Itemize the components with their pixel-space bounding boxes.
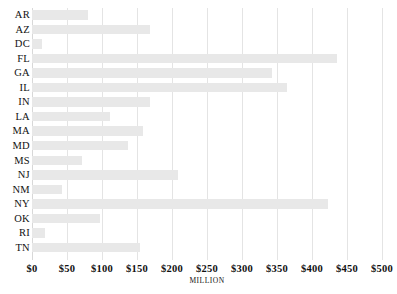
y-axis-label: MA	[0, 124, 30, 139]
bar	[32, 156, 82, 166]
x-axis-unit-label: MILLION	[167, 276, 247, 285]
y-axis-label: AZ	[0, 23, 30, 38]
bar	[32, 170, 178, 180]
y-axis-label: OK	[0, 212, 30, 227]
bar-row	[32, 37, 382, 52]
bar-row	[32, 95, 382, 110]
bar-row	[32, 241, 382, 256]
y-axis-label: FL	[0, 52, 30, 67]
gridline	[382, 8, 383, 260]
bar	[32, 228, 45, 238]
y-axis-label: MD	[0, 139, 30, 154]
x-axis-tick-labels: $0$50$100$150$200$250$300$350$400$450$50…	[0, 263, 379, 277]
bar-row	[32, 66, 382, 81]
y-axis-label: NJ	[0, 168, 30, 183]
x-axis-tick-label: $500	[352, 263, 397, 274]
bar-row	[32, 154, 382, 169]
bar	[32, 141, 128, 151]
bar	[32, 126, 143, 136]
bar-row	[32, 183, 382, 198]
bar	[32, 83, 287, 93]
bar-row	[32, 212, 382, 227]
bar	[32, 68, 272, 78]
bar-row	[32, 197, 382, 212]
bar	[32, 25, 150, 35]
bar	[32, 199, 328, 209]
bar-row	[32, 110, 382, 125]
bar-row	[32, 139, 382, 154]
y-axis-label: IN	[0, 95, 30, 110]
y-axis-label: NY	[0, 197, 30, 212]
plot-area	[32, 8, 382, 260]
y-axis-label: GA	[0, 66, 30, 81]
bar	[32, 97, 150, 107]
bar	[32, 243, 140, 253]
bar-row	[32, 81, 382, 96]
bar-row	[32, 124, 382, 139]
bar-rows	[32, 8, 382, 260]
y-axis-label: MS	[0, 154, 30, 169]
y-axis-category-labels: ARAZDCFLGAILINLAMAMDMSNJNMNYOKRITN	[0, 8, 30, 260]
bar	[32, 214, 100, 224]
bar	[32, 10, 88, 20]
bar	[32, 112, 110, 122]
bar-row	[32, 8, 382, 23]
bar	[32, 39, 42, 49]
bar-row	[32, 52, 382, 67]
y-axis-label: LA	[0, 110, 30, 125]
y-axis-label: IL	[0, 81, 30, 96]
bar-row	[32, 226, 382, 241]
chart-title-clipped	[0, 0, 379, 3]
bar-row	[32, 168, 382, 183]
y-axis-label: NM	[0, 183, 30, 198]
y-axis-label: DC	[0, 37, 30, 52]
y-axis-label: RI	[0, 226, 30, 241]
bar	[32, 185, 62, 195]
y-axis-label: TN	[0, 241, 30, 256]
y-axis-label: AR	[0, 8, 30, 23]
bar	[32, 54, 337, 64]
bar-row	[32, 23, 382, 38]
